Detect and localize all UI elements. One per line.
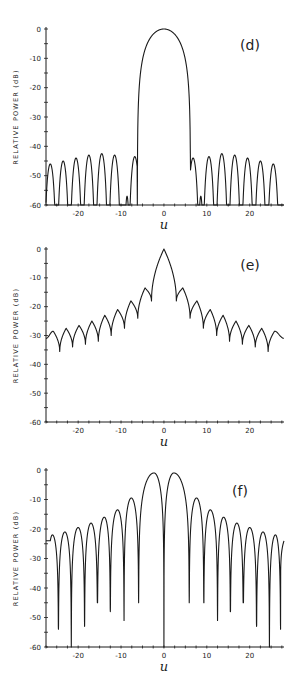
x-tick-label: 20 <box>245 652 254 660</box>
x-tick-label: -10 <box>115 210 126 218</box>
y-tick-label: -30 <box>30 114 41 122</box>
y-tick-label: -30 <box>30 555 41 563</box>
pattern-curve <box>46 29 284 205</box>
y-tick-label: -20 <box>30 303 41 311</box>
y-tick-label: -40 <box>30 361 41 369</box>
x-tick-label: 10 <box>202 652 211 660</box>
x-tick-label: -10 <box>115 427 126 435</box>
panel-label: (f) <box>232 483 248 499</box>
figure-canvas: 0-10-20-30-40-50-60-20-1001020uRELATIVE … <box>0 0 298 686</box>
x-axis-title: u <box>160 217 168 232</box>
y-tick-label: 0 <box>37 246 41 254</box>
y-tick-label: 0 <box>37 26 41 34</box>
y-tick-label: -50 <box>30 614 41 622</box>
y-tick-label: -60 <box>30 644 41 652</box>
y-axis-title: RELATIVE POWER (dB) <box>12 69 20 164</box>
y-tick-label: -60 <box>30 419 41 427</box>
y-tick-label: -10 <box>30 274 41 282</box>
y-tick-label: -20 <box>30 526 41 534</box>
x-tick-label: 10 <box>202 210 211 218</box>
y-tick-label: -20 <box>30 84 41 92</box>
y-tick-label: -50 <box>30 390 41 398</box>
chart-panel-e: 0-10-20-30-40-50-60-20-1001020uRELATIVE … <box>12 246 284 450</box>
x-tick-label: 20 <box>245 210 254 218</box>
y-tick-label: -40 <box>30 143 41 151</box>
x-tick-label: -10 <box>115 652 126 660</box>
x-axis-title: u <box>160 659 168 674</box>
panel-label: (d) <box>240 37 260 53</box>
y-tick-label: -10 <box>30 55 41 63</box>
y-axis-title: RELATIVE POWER (dB) <box>12 288 20 383</box>
chart-panel-d: 0-10-20-30-40-50-60-20-1001020uRELATIVE … <box>12 26 284 233</box>
x-tick-label: 20 <box>245 427 254 435</box>
x-tick-label: -20 <box>72 210 83 218</box>
x-axis-title: u <box>160 434 168 449</box>
y-tick-label: -60 <box>30 202 41 210</box>
x-tick-label: -20 <box>72 427 83 435</box>
y-axis-title: RELATIVE POWER (dB) <box>12 511 20 606</box>
y-tick-label: -40 <box>30 585 41 593</box>
y-tick-label: -30 <box>30 332 41 340</box>
y-tick-label: 0 <box>37 467 41 475</box>
x-tick-label: -20 <box>72 652 83 660</box>
y-tick-label: -10 <box>30 496 41 504</box>
panel-label: (e) <box>240 257 260 273</box>
pattern-curve <box>46 473 284 647</box>
chart-panel-f: 0-10-20-30-40-50-60-20-1001020uRELATIVE … <box>12 467 284 675</box>
x-tick-label: 10 <box>202 427 211 435</box>
y-tick-label: -50 <box>30 172 41 180</box>
